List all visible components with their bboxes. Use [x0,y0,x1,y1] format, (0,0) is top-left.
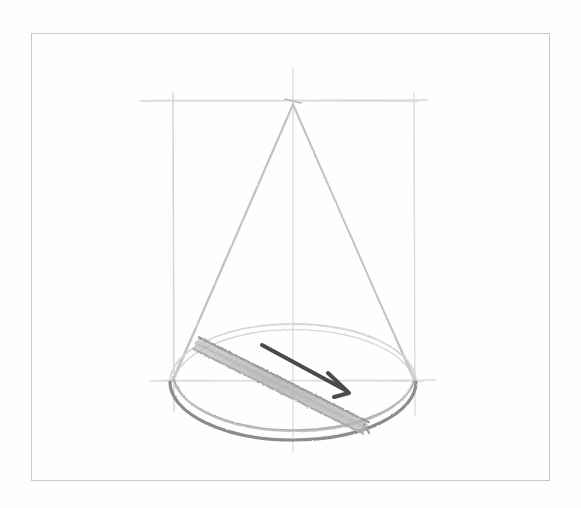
cone-sketch-svg [0,0,581,508]
left-guide-line [173,93,174,412]
sketch-canvas: Pencil sketch of a cone with diameter ar… [0,0,581,508]
